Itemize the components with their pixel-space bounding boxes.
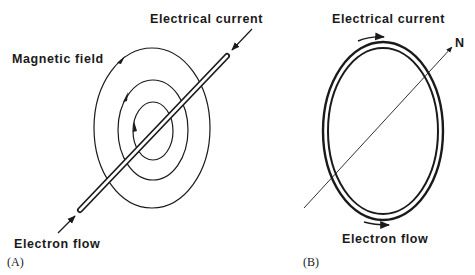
current-arrow-icon bbox=[232, 29, 252, 50]
conductor-rod bbox=[80, 56, 227, 210]
loop-inner bbox=[328, 48, 438, 214]
panel-a-letter: (A) bbox=[7, 255, 24, 270]
field-arrow-middle-icon bbox=[123, 92, 128, 102]
field-arrow-outer-icon bbox=[117, 56, 125, 64]
label-a-electrical-current: Electrical current bbox=[150, 12, 263, 26]
loop-outer bbox=[323, 42, 443, 220]
current-loop bbox=[323, 42, 443, 220]
north-axis-arrow-icon bbox=[304, 47, 452, 208]
field-ring-outer bbox=[94, 48, 210, 208]
electron-arrow-icon bbox=[58, 216, 75, 233]
loop-electron-arrow-icon bbox=[364, 222, 389, 225]
panel-b-letter: (B) bbox=[303, 255, 319, 270]
label-a-magnetic-field: Magnetic field bbox=[12, 52, 104, 66]
label-b-north: N bbox=[455, 36, 465, 50]
label-b-electron-flow: Electron flow bbox=[342, 232, 428, 246]
label-b-electrical-current: Electrical current bbox=[332, 12, 445, 26]
magnetic-field-rings bbox=[94, 48, 210, 208]
loop-current-arrow-icon bbox=[358, 37, 384, 41]
label-a-electron-flow: Electron flow bbox=[14, 237, 100, 251]
